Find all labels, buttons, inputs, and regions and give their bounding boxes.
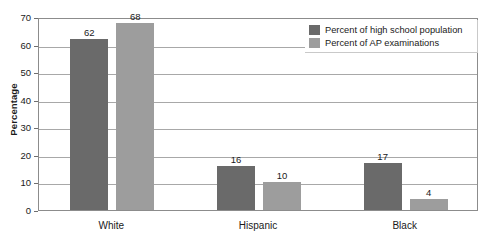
legend-swatch-icon xyxy=(309,25,320,35)
y-axis-tick-label: 30 xyxy=(4,123,31,133)
y-axis-tick-label: 0 xyxy=(4,206,31,216)
bar-value-label: 16 xyxy=(214,155,258,165)
bar xyxy=(364,163,402,210)
y-axis-tick-label: 70 xyxy=(4,13,31,23)
y-axis-tick-mark xyxy=(34,211,38,212)
legend-item-label: Percent of AP examinations xyxy=(325,38,439,48)
legend-item: Percent of high school population xyxy=(309,23,475,36)
legend-item-label: Percent of high school population xyxy=(325,25,462,35)
bar-value-label: 17 xyxy=(361,152,405,162)
y-axis-tick-label: 40 xyxy=(4,96,31,106)
bar xyxy=(70,39,108,210)
y-axis-tick-label: 60 xyxy=(4,41,31,51)
plot-area: 62681610174 Percent of high school popul… xyxy=(38,18,478,211)
bar-value-label: 68 xyxy=(113,12,157,22)
y-axis-tick-label: 50 xyxy=(4,68,31,78)
legend: Percent of high school population Percen… xyxy=(305,20,478,53)
bar-value-label: 10 xyxy=(260,171,304,181)
bar-chart-figure: Percentage 706050403020100 62681610174 P… xyxy=(0,0,482,244)
bar-value-label: 62 xyxy=(67,28,111,38)
bar xyxy=(410,199,448,210)
y-axis-tick-label: 10 xyxy=(4,178,31,188)
legend-item: Percent of AP examinations xyxy=(309,36,475,49)
x-axis-category-label: Hispanic xyxy=(198,220,318,231)
bar xyxy=(116,23,154,210)
y-axis-title: Percentage xyxy=(8,70,19,150)
x-axis-category-label: White xyxy=(51,220,171,231)
bar-value-label: 4 xyxy=(407,188,451,198)
bar xyxy=(217,166,255,210)
legend-swatch-icon xyxy=(309,38,320,48)
x-axis-category-label: Black xyxy=(345,220,465,231)
bar xyxy=(263,182,301,210)
y-axis-tick-label: 20 xyxy=(4,151,31,161)
